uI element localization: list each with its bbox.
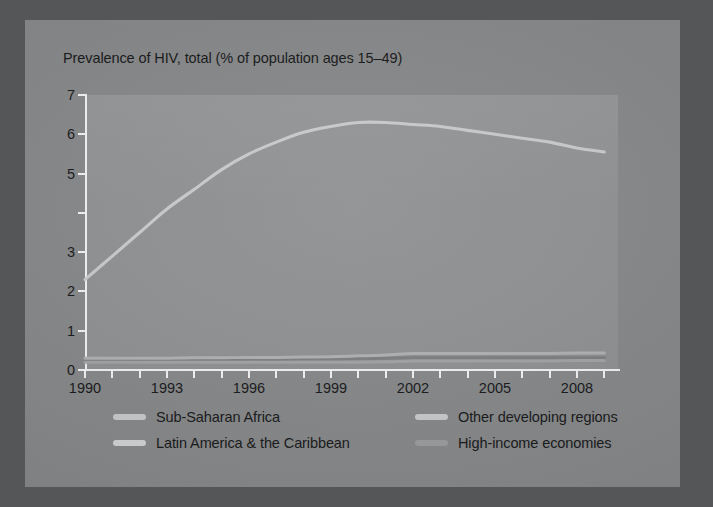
x-axis-tick: [521, 371, 523, 378]
x-axis-tick: [166, 371, 168, 378]
legend-swatch-icon: [415, 414, 448, 420]
x-axis-tick: [221, 371, 223, 378]
x-axis-tick: [139, 371, 141, 378]
y-axis-tick: [78, 330, 86, 332]
x-axis-tick-label: 2005: [479, 380, 511, 396]
x-axis-tick: [303, 371, 305, 378]
legend-item-other-developing-regions: Other developing regions: [415, 404, 618, 430]
x-axis-tick-label: 1996: [233, 380, 265, 396]
chart-card: Prevalence of HIV, total (% of populatio…: [25, 20, 680, 487]
legend-item-label: Latin America & the Caribbean: [156, 435, 350, 451]
y-axis-tick: [78, 173, 86, 175]
x-axis-tick-label: 2008: [561, 380, 593, 396]
y-axis-tick: [78, 94, 86, 96]
legend-item-sub-saharan-africa: Sub-Saharan Africa: [113, 404, 280, 430]
x-axis-tick: [549, 371, 551, 378]
legend-item-label: Other developing regions: [458, 409, 618, 425]
y-axis-tick-label: 6: [55, 127, 75, 142]
x-axis-tick: [603, 371, 605, 378]
x-axis-tick: [84, 371, 86, 378]
x-axis-tick-label: 1999: [315, 380, 347, 396]
x-axis-tick: [330, 371, 332, 378]
chart-title: Prevalence of HIV, total (% of populatio…: [63, 50, 402, 66]
x-axis-tick: [439, 371, 441, 378]
legend-swatch-icon: [113, 440, 146, 446]
y-axis-tick-label: 3: [55, 245, 75, 260]
y-axis-tick-label: 7: [55, 88, 75, 103]
x-axis-tick: [576, 371, 578, 378]
legend-item-label: High-income economies: [458, 435, 611, 451]
legend-swatch-icon: [113, 414, 146, 420]
x-axis-tick: [275, 371, 277, 378]
x-axis-tick-label: 1990: [69, 380, 101, 396]
plot-area: [85, 95, 618, 370]
x-axis-tick-label: 1993: [151, 380, 183, 396]
y-axis-tick: [78, 251, 86, 253]
x-axis-tick: [494, 371, 496, 378]
x-axis-tick: [248, 371, 250, 378]
x-axis-tick-label: 2002: [397, 380, 429, 396]
x-axis-tick: [357, 371, 359, 378]
chart-legend: Sub-Saharan Africa Other developing regi…: [85, 402, 665, 462]
y-axis-tick: [78, 290, 86, 292]
legend-item-high-income-economies: High-income economies: [415, 430, 611, 456]
x-axis-tick: [467, 371, 469, 378]
x-axis-tick: [385, 371, 387, 378]
y-axis-tick: [78, 133, 86, 135]
legend-item-label: Sub-Saharan Africa: [156, 409, 280, 425]
x-axis-tick: [111, 371, 113, 378]
legend-item-latin-america-caribbean: Latin America & the Caribbean: [113, 430, 350, 456]
y-axis-tick-label: 2: [55, 284, 75, 299]
y-axis-tick-label: 1: [55, 324, 75, 339]
figure-frame: Prevalence of HIV, total (% of populatio…: [0, 0, 713, 507]
y-axis-tick-label: 0: [55, 363, 75, 378]
y-axis-tick-label: 5: [55, 167, 75, 182]
y-axis-tick: [78, 212, 86, 214]
legend-swatch-icon: [415, 440, 448, 446]
x-axis-tick: [412, 371, 414, 378]
x-axis-tick: [193, 371, 195, 378]
